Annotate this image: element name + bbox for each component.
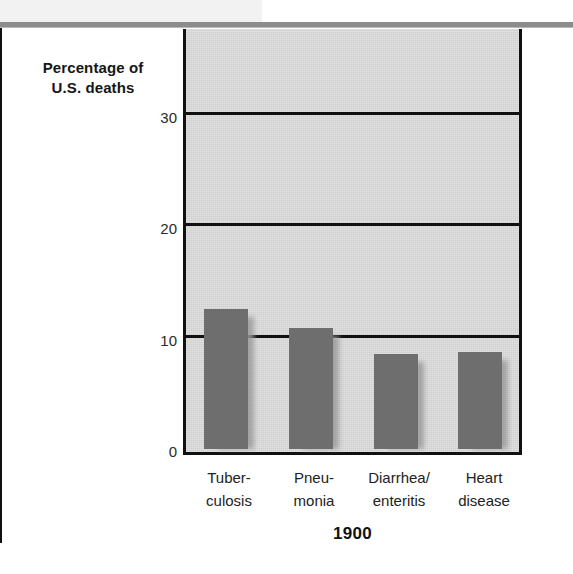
bar[interactable] xyxy=(204,309,248,449)
x-category-label: Tuber-culosis xyxy=(181,466,277,512)
x-category-label-line: disease xyxy=(436,489,532,512)
bar-group xyxy=(458,352,518,449)
page-horizontal-rule xyxy=(0,22,573,27)
bar[interactable] xyxy=(458,352,502,449)
x-category-label-line: Tuber- xyxy=(181,466,277,489)
page-top-band xyxy=(0,0,262,22)
x-category-label: Pneu-monia xyxy=(266,466,362,512)
y-axis-tick-labels: 0102030 xyxy=(131,29,177,455)
bar-group xyxy=(204,309,264,449)
x-category-label-line: Pneu- xyxy=(266,466,362,489)
y-tick-label-30: 30 xyxy=(137,110,177,125)
x-axis-category-labels: Tuber-culosisPneu-moniaDiarrhea/enteriti… xyxy=(183,466,522,516)
gridline-30 xyxy=(186,112,519,115)
bar[interactable] xyxy=(289,328,333,449)
x-category-label-line: Heart xyxy=(436,466,532,489)
y-tick-label-0: 0 xyxy=(137,444,177,459)
y-tick-label-20: 20 xyxy=(137,221,177,236)
x-category-label-line: monia xyxy=(266,489,362,512)
x-category-label-line: enteritis xyxy=(351,489,447,512)
y-tick-label-10: 10 xyxy=(137,333,177,348)
x-category-label: Heartdisease xyxy=(436,466,532,512)
page-left-edge-line xyxy=(0,28,2,543)
bar-group xyxy=(289,328,349,449)
x-category-label-line: Diarrhea/ xyxy=(351,466,447,489)
plot-area xyxy=(183,29,522,455)
bar[interactable] xyxy=(374,354,418,449)
bar-group xyxy=(374,354,434,449)
x-category-label: Diarrhea/enteritis xyxy=(351,466,447,512)
x-axis-title: 1900 xyxy=(183,524,522,544)
x-category-label-line: culosis xyxy=(181,489,277,512)
gridline-20 xyxy=(186,223,519,226)
